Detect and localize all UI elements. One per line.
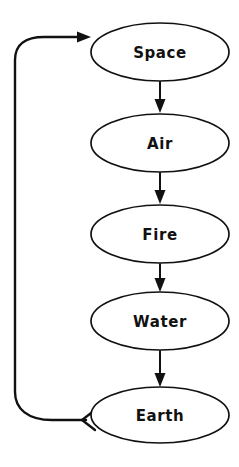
diagram-canvas: Space Air Fire Water — [0, 0, 239, 467]
edge-air-to-fire — [155, 173, 166, 204]
edge-fire-to-water — [155, 264, 166, 292]
node-air-label: Air — [147, 135, 173, 153]
elements-cycle-diagram: Space Air Fire Water — [0, 0, 239, 467]
loop-head-arrow-icon — [77, 32, 91, 43]
edge-space-to-air — [155, 82, 166, 113]
node-space[interactable]: Space — [91, 23, 229, 81]
node-water-label: Water — [133, 313, 187, 331]
edge-water-to-earth — [155, 351, 166, 387]
edge-fire-to-water-arrow-icon — [155, 278, 166, 292]
edge-air-to-fire-arrow-icon — [155, 190, 166, 204]
node-earth-label: Earth — [136, 407, 185, 425]
node-air[interactable]: Air — [91, 114, 229, 172]
return-loop-path — [15, 37, 86, 420]
node-space-label: Space — [133, 44, 187, 62]
edge-space-to-air-arrow-icon — [155, 99, 166, 113]
edge-water-to-earth-arrow-icon — [155, 373, 166, 387]
edge-earth-to-space — [15, 32, 95, 431]
node-fire[interactable]: Fire — [91, 205, 229, 263]
node-water[interactable]: Water — [91, 292, 229, 350]
node-fire-label: Fire — [142, 226, 177, 244]
node-earth[interactable]: Earth — [91, 387, 229, 443]
